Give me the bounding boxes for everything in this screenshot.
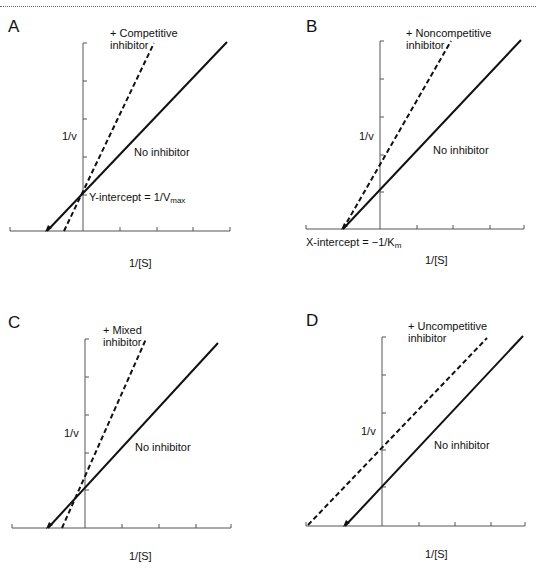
panel-b-inhibitor-label-2: inhibitor bbox=[406, 39, 445, 51]
panel-a-inhibitor-label-2: inhibitor bbox=[110, 39, 149, 51]
panel-d-x-label: 1/[S] bbox=[425, 548, 448, 560]
panel-d-no-inhibitor-label: No inhibitor bbox=[434, 439, 490, 451]
panel-a-no-inhibitor-label: No inhibitor bbox=[134, 146, 190, 158]
panel-d-y-label: 1/v bbox=[361, 425, 376, 437]
panel-d-inhibitor-label-1: + Uncompetitive bbox=[408, 320, 487, 332]
panel-b-inhibitor-label-1: + Noncompetitive bbox=[406, 27, 491, 39]
panel-a-letter: A bbox=[8, 18, 19, 36]
panel-c-x-label: 1/[S] bbox=[129, 550, 152, 562]
panel-a-inhibitor-label-1: + Competitive bbox=[110, 27, 178, 39]
panel-a-annotation: Y-intercept = 1/Vmax bbox=[89, 191, 185, 207]
lineweaver-burk-plots bbox=[0, 0, 536, 572]
panel-b-annotation: X-intercept = −1/Km bbox=[306, 236, 401, 252]
panel-d-inhibitor-label-2: inhibitor bbox=[408, 332, 447, 344]
panel-c-letter: C bbox=[8, 314, 20, 332]
panel-b-x-label: 1/[S] bbox=[425, 254, 448, 266]
panel-c-y-label: 1/v bbox=[64, 427, 79, 439]
panel-d-uncompetitive-line bbox=[308, 338, 487, 525]
panel-b-y-label: 1/v bbox=[359, 130, 374, 142]
panel-d-letter: D bbox=[306, 312, 318, 330]
panel-b-letter: B bbox=[306, 18, 317, 36]
panel-c-inhibitor-label-1: + Mixed bbox=[103, 324, 142, 336]
panel-a-y-label: 1/v bbox=[62, 130, 77, 142]
panel-a-x-label: 1/[S] bbox=[129, 257, 152, 269]
panel-c-no-inhibitor-label: No inhibitor bbox=[135, 441, 191, 453]
panel-b-no-inhibitor-label: No inhibitor bbox=[433, 144, 489, 156]
panel-c-inhibitor-label-2: inhibitor bbox=[103, 336, 142, 348]
